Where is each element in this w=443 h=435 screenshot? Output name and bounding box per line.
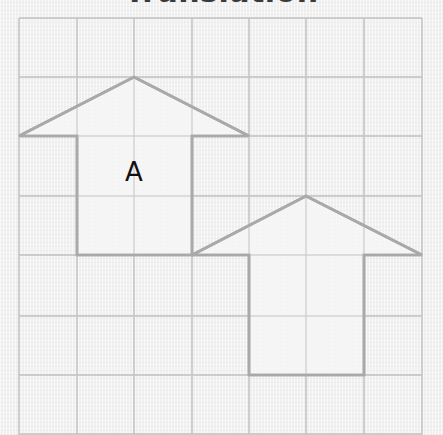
diagram-canvas: Translation A xyxy=(0,0,443,435)
shapes-layer: A xyxy=(19,18,422,435)
translation-grid-diagram: A xyxy=(0,0,443,435)
shape-a-label: A xyxy=(125,157,143,187)
shape-b-translated-house xyxy=(192,196,422,375)
